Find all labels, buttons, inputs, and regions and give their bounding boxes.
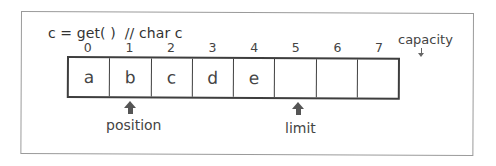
- buffer-cell: b: [110, 58, 151, 96]
- index-label: 6: [317, 40, 359, 55]
- arrow-stem: [296, 108, 301, 115]
- limit-label: limit: [285, 120, 316, 136]
- buffer-array: a b c d e: [67, 56, 400, 100]
- index-label: 0: [67, 40, 109, 55]
- index-label: 2: [150, 40, 192, 55]
- buffer-cell: a: [69, 58, 110, 96]
- buffer-cell: [275, 59, 316, 97]
- buffer-cell: d: [193, 59, 234, 97]
- index-label: 3: [192, 40, 234, 55]
- arrow-stem: [128, 107, 133, 114]
- buffer-cell: c: [151, 58, 192, 96]
- index-label: 5: [275, 40, 317, 55]
- code-caption: c = get( ) // char c: [48, 25, 183, 41]
- position-label: position: [106, 117, 161, 133]
- buffer-cell: [316, 59, 357, 97]
- buffer-cell: [358, 60, 398, 98]
- index-label: 1: [109, 40, 151, 55]
- index-label: 4: [233, 40, 275, 55]
- buffer-cell: e: [234, 59, 275, 97]
- index-label: 7: [358, 40, 400, 55]
- down-arrow-icon: [418, 53, 424, 57]
- capacity-label: capacity: [398, 32, 453, 47]
